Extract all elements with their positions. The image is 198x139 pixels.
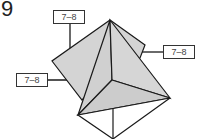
origami-diagram [0, 0, 198, 139]
label-right: 7–8 [163, 45, 195, 59]
label-top: 7–8 [53, 10, 85, 24]
label-left: 7–8 [16, 73, 48, 87]
